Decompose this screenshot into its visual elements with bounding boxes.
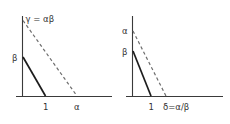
left-solid-budget-line xyxy=(23,57,46,96)
left-panel: γ = αβ β 1 α xyxy=(0,0,115,124)
right-beta-label: β xyxy=(122,47,127,57)
left-panel-plot: γ = αβ β 1 α xyxy=(0,0,115,124)
right-solid-budget-line xyxy=(133,51,151,96)
right-x-tick-delta-label: δ=α/β xyxy=(163,102,189,112)
left-gamma-equation-label: γ = αβ xyxy=(26,14,55,24)
left-dashed-budget-line xyxy=(23,21,77,97)
right-alpha-label: α xyxy=(122,26,128,36)
left-x-tick-alpha-label: α xyxy=(74,102,80,112)
right-panel-plot: α β 1 δ=α/β xyxy=(115,0,230,124)
right-panel: α β 1 δ=α/β xyxy=(115,0,230,124)
right-x-tick-one-label: 1 xyxy=(149,102,154,112)
left-beta-label: β xyxy=(12,53,17,63)
left-x-tick-one-label: 1 xyxy=(43,102,48,112)
figure-container: γ = αβ β 1 α α β 1 δ=α/β xyxy=(0,0,230,124)
